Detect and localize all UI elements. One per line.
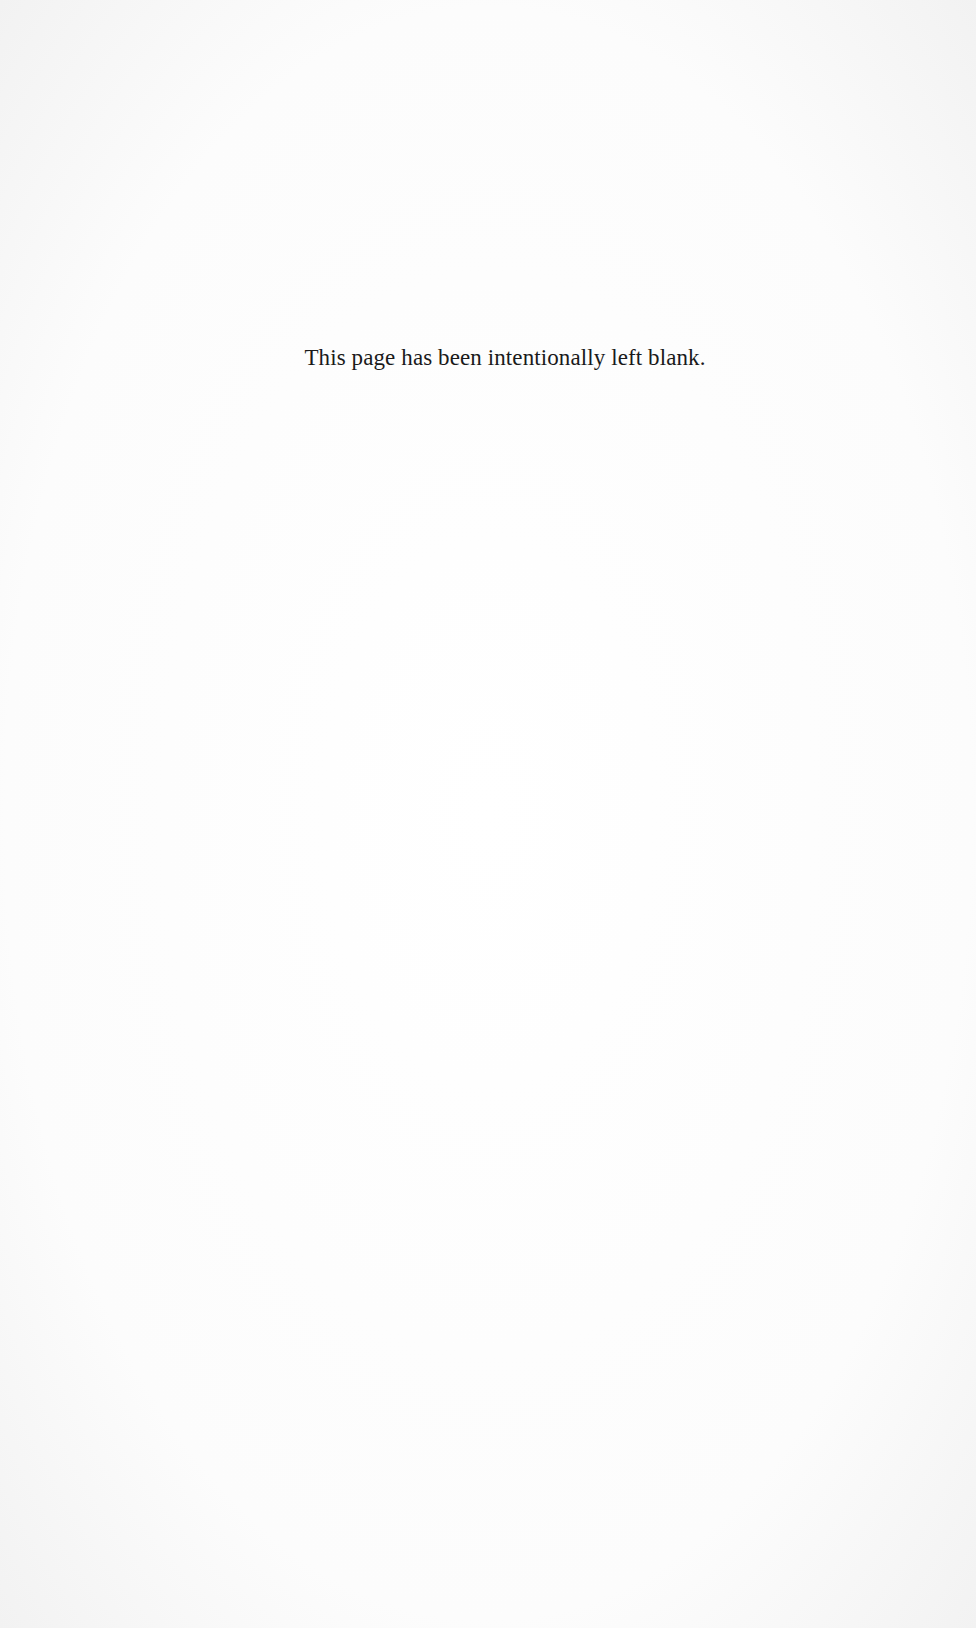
- document-page: This page has been intentionally left bl…: [0, 0, 976, 1628]
- blank-page-notice: This page has been intentionally left bl…: [0, 344, 976, 372]
